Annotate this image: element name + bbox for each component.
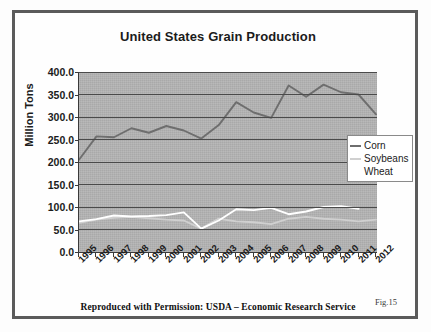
legend-label: Corn [364, 139, 386, 152]
y-tick-label: 50.0 [28, 224, 74, 236]
y-tick-mark [75, 140, 79, 141]
y-tick-mark [75, 207, 79, 208]
legend-swatch-corn-icon [350, 145, 361, 147]
y-tick-label: 250.0 [28, 134, 74, 146]
legend-item-corn[interactable]: Corn [350, 139, 409, 152]
gridline [79, 139, 377, 140]
y-tick-label: 0.0 [28, 246, 74, 258]
figure-number: Fig.15 [375, 297, 397, 307]
gridline [79, 117, 377, 118]
y-tick-mark [75, 72, 79, 73]
gridline [79, 207, 377, 208]
y-tick-mark [75, 230, 79, 231]
legend-label: Wheat [364, 165, 393, 178]
y-tick-label: 200.0 [28, 156, 74, 168]
x-axis-labels: 1995199619971998199920002001200220032004… [78, 257, 377, 297]
y-tick-mark [75, 117, 79, 118]
legend-swatch-soybeans-icon [350, 158, 361, 160]
y-tick-mark [75, 95, 79, 96]
series-line-corn [79, 85, 376, 160]
gridline [79, 162, 377, 163]
figure-page: United States Grain Production Million T… [0, 0, 431, 332]
footer-credit: Reproduced with Permission: USDA – Econo… [80, 302, 355, 312]
gridline [79, 94, 377, 95]
y-tick-mark [75, 162, 79, 163]
y-tick-label: 400.0 [28, 66, 74, 78]
gridline [79, 229, 377, 230]
plot-area [78, 72, 377, 253]
figure-frame: United States Grain Production Million T… [12, 10, 418, 319]
legend-item-soybeans[interactable]: Soybeans [350, 152, 409, 165]
gridline [79, 184, 377, 185]
figure-footer: Reproduced with Permission: USDA – Econo… [15, 296, 421, 314]
series-line-soybeans [79, 217, 376, 229]
chart-title: United States Grain Production [15, 29, 421, 44]
y-tick-label: 350.0 [28, 89, 74, 101]
y-axis-labels: 0.050.0100.0150.0200.0250.0300.0350.0400… [24, 72, 74, 252]
legend-swatch-wheat-icon [350, 171, 361, 173]
y-tick-label: 300.0 [28, 111, 74, 123]
y-tick-label: 150.0 [28, 179, 74, 191]
chart-legend: CornSoybeansWheat [347, 135, 413, 182]
y-tick-mark [75, 185, 79, 186]
gridline [79, 72, 377, 73]
y-tick-label: 100.0 [28, 201, 74, 213]
legend-label: Soybeans [364, 152, 408, 165]
legend-item-wheat[interactable]: Wheat [350, 165, 409, 178]
